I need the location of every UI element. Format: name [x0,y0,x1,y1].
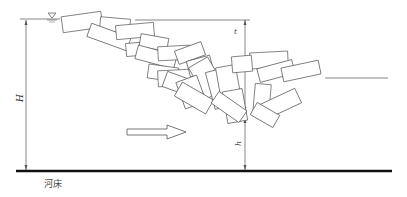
label-H: H [15,94,25,102]
label-t: t [234,28,237,36]
thickness-dimension [244,20,247,172]
flow-arrow-icon [127,125,186,139]
depth-H-dimension [25,20,28,170]
water-level-icon [47,13,57,22]
label-riverbed: 河床 [44,177,62,190]
ice-jam-diagram [0,0,407,197]
ice-blocks [61,11,321,127]
label-h: h [234,141,243,146]
